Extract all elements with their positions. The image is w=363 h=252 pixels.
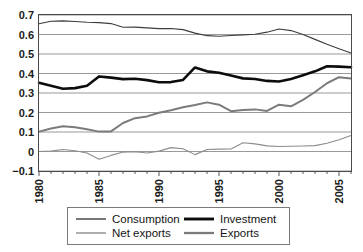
- legend-label-consumption: Consumption: [112, 213, 180, 225]
- x-tick-label: 1985: [93, 179, 105, 203]
- y-tick-label: −0.1: [12, 165, 34, 177]
- series-line-investment: [39, 66, 351, 88]
- y-tick-label: 0: [28, 146, 34, 158]
- x-tick-label: 2005: [333, 179, 345, 203]
- x-tick-label: 1995: [213, 179, 225, 203]
- x-tick-label: 1980: [33, 179, 45, 203]
- chart-legend: ConsumptionInvestmentNet exportsExports: [68, 208, 290, 245]
- series-layer: [39, 21, 351, 159]
- y-tick-label: 0.7: [19, 9, 34, 21]
- gridlines: [39, 15, 351, 171]
- y-tick-label: 0.3: [19, 87, 34, 99]
- series-line-consumption: [39, 21, 351, 53]
- x-tick-label: 1990: [153, 179, 165, 203]
- legend-label-investment: Investment: [220, 213, 277, 225]
- legend-label-net-exports: Net exports: [112, 227, 171, 239]
- y-tick-label: 0.5: [19, 48, 34, 60]
- y-tick-label: 0.2: [19, 107, 34, 119]
- legend-label-exports: Exports: [220, 227, 259, 239]
- y-tick-label: 0.4: [19, 68, 35, 80]
- y-tick-label: 0.1: [19, 126, 34, 138]
- x-tick-label: 2000: [273, 179, 285, 203]
- chart-canvas: −0.100.10.20.30.40.50.60.7 1980198519901…: [0, 0, 363, 252]
- x-axis-tick-labels: 198019851990199520002005: [33, 179, 345, 203]
- y-axis-tick-labels: −0.100.10.20.30.40.50.60.7: [12, 9, 35, 177]
- y-tick-label: 0.6: [19, 29, 34, 41]
- line-chart: −0.100.10.20.30.40.50.60.7 1980198519901…: [0, 0, 363, 252]
- series-line-net-exports: [39, 136, 351, 160]
